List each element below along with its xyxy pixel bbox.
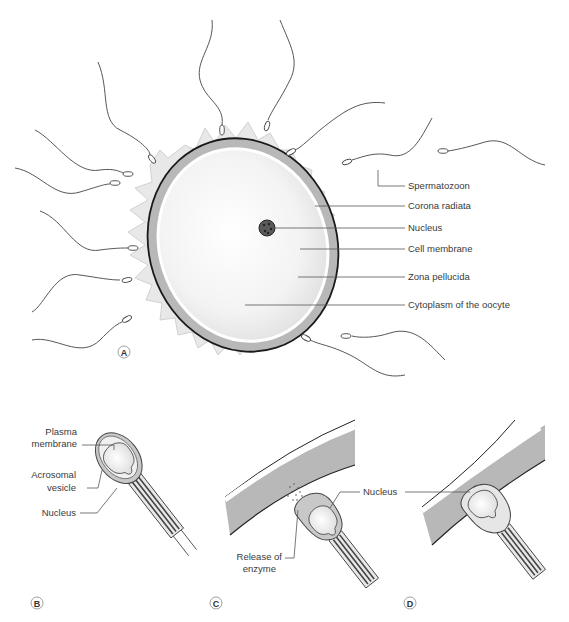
label-zona-pellucida: Zona pellucida <box>408 271 471 282</box>
label-cell-membrane: Cell membrane <box>408 243 472 254</box>
fertilization-diagram: Spermatozoon Corona radiata Nucleus Cell… <box>0 0 569 622</box>
panel-letter-d: D <box>404 597 416 609</box>
panel-a: Spermatozoon Corona radiata Nucleus Cell… <box>15 20 545 377</box>
label-nucleus-c: Nucleus <box>363 486 398 497</box>
label-cytoplasm: Cytoplasm of the oocyte <box>408 299 510 310</box>
label-plasma-membrane-2: membrane <box>32 438 77 449</box>
label-release-1: Release of <box>237 551 283 562</box>
label-acrosomal-vesicle-2: vesicle <box>47 482 76 493</box>
label-corona-radiata: Corona radiata <box>408 200 472 211</box>
svg-text:C: C <box>213 599 220 609</box>
label-acrosomal-vesicle-1: Acrosomal <box>31 469 76 480</box>
panel-letter-b: B <box>31 597 43 609</box>
label-spermatozoon: Spermatozoon <box>408 180 470 191</box>
panel-letter-a: A <box>118 346 130 358</box>
label-nucleus-a: Nucleus <box>408 222 443 233</box>
label-plasma-membrane-1: Plasma <box>45 426 77 437</box>
svg-text:D: D <box>407 599 414 609</box>
svg-text:A: A <box>121 348 128 358</box>
panel-c: Nucleus Release of enzyme C <box>210 420 398 609</box>
panel-letter-c: C <box>210 597 222 609</box>
svg-text:B: B <box>34 599 41 609</box>
label-nucleus-b: Nucleus <box>42 507 77 518</box>
panel-d: D <box>404 420 555 609</box>
panel-b: Plasma membrane Acrosomal vesicle Nucleu… <box>31 424 208 609</box>
label-release-2: enzyme <box>243 563 276 574</box>
